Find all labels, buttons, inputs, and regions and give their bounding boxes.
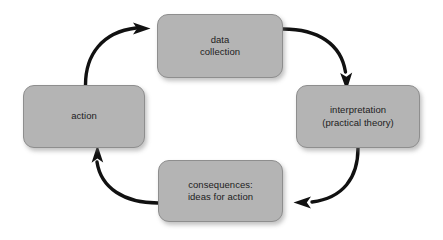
- arrow-interpretation-to-consequences: [294, 148, 359, 208]
- node-interpretation-label: interpretation (practical theory): [318, 104, 398, 129]
- arrow-action-to-data-collection: [86, 23, 151, 85]
- node-consequences[interactable]: consequences: ideas for action: [158, 160, 283, 222]
- node-data-collection[interactable]: data collection: [157, 14, 283, 78]
- node-action-label: action: [67, 110, 101, 123]
- node-data-collection-label: data collection: [196, 34, 244, 59]
- node-interpretation[interactable]: interpretation (practical theory): [296, 85, 420, 148]
- node-consequences-label: consequences: ideas for action: [184, 179, 257, 204]
- action-research-cycle-diagram: data collection interpretation (practica…: [0, 0, 443, 240]
- arrow-consequences-to-action: [92, 145, 158, 203]
- arrow-data-collection-to-interpretation: [283, 29, 352, 91]
- node-action[interactable]: action: [23, 85, 145, 148]
